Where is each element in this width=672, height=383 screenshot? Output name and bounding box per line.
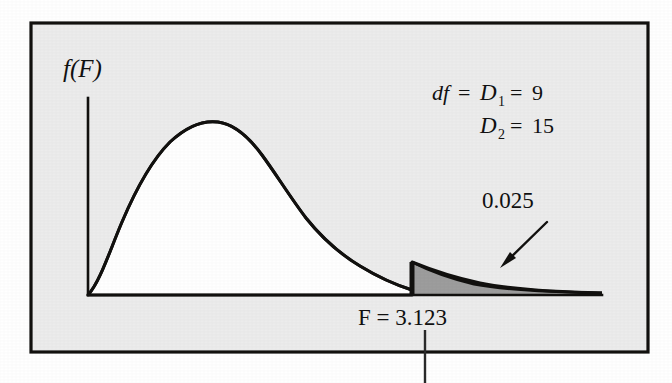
df-equals-2: = <box>510 113 522 138</box>
f-distribution-figure: f(F) df = D 1 = 9 D 2 = 15 0.025 F = 3.1… <box>0 0 672 383</box>
df-equals-1b: = <box>510 80 522 105</box>
distribution-chart-canvas: f(F) df = D 1 = 9 D 2 = 15 0.025 F = 3.1… <box>0 0 672 383</box>
df-subscript-1: 1 <box>498 94 505 109</box>
df-subscript-2: 2 <box>498 127 505 142</box>
df-symbol-2: D <box>479 113 497 138</box>
df-value-1: 9 <box>532 80 543 105</box>
y-axis-label: f(F) <box>63 55 102 83</box>
df-equals-1: = <box>458 80 470 105</box>
tail-area-label: 0.025 <box>482 188 534 213</box>
df-prefix: df <box>432 80 452 105</box>
df-symbol-1: D <box>479 80 497 105</box>
df-value-2: 15 <box>532 113 554 138</box>
critical-value-label: F = 3.123 <box>358 305 447 330</box>
degrees-of-freedom-line-2: D 2 = 15 <box>479 113 554 142</box>
figure-frame <box>31 23 648 352</box>
